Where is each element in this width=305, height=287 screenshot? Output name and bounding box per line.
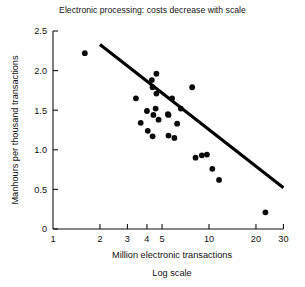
data-point (153, 71, 159, 77)
x-tick-label: 1 (50, 234, 55, 244)
y-tick-label: 0 (42, 224, 47, 234)
data-point (209, 166, 215, 172)
y-tick-label: 1.5 (34, 106, 47, 116)
data-point (174, 121, 180, 127)
x-tick-label: 10 (204, 234, 214, 244)
chart-figure: Electronic processing: costs decrease wi… (0, 0, 305, 287)
data-point (156, 117, 162, 123)
x-tick-label: 2 (97, 234, 102, 244)
y-axis-ticks: 00.51.01.52.02.5 (34, 26, 58, 234)
data-point (166, 112, 172, 118)
data-points (82, 50, 268, 215)
y-tick-label: 2.5 (34, 26, 47, 36)
x-tick-label: 4 (144, 234, 149, 244)
data-point (199, 152, 205, 158)
data-point (204, 152, 210, 158)
data-point (166, 133, 172, 139)
data-point (144, 108, 150, 114)
x-axis-subtitle: Log scale (152, 268, 191, 278)
data-point (138, 120, 144, 126)
data-point (145, 128, 151, 134)
y-axis-title: Manhours per thousand transactions (10, 55, 20, 205)
x-tick-label: 30 (278, 234, 288, 244)
data-point (216, 177, 222, 183)
axes: 00.51.01.52.02.5 12345102030 (34, 26, 288, 244)
data-point (150, 112, 156, 118)
trend-line (100, 44, 283, 187)
data-point (263, 209, 269, 215)
data-point (150, 133, 156, 139)
x-tick-label: 3 (125, 234, 130, 244)
data-point (82, 50, 88, 56)
data-point (193, 155, 199, 161)
x-axis-ticks: 12345102030 (50, 224, 288, 244)
data-point (133, 95, 139, 101)
data-point (153, 106, 159, 112)
data-point (189, 84, 195, 90)
scatter-plot: 00.51.01.52.02.5 12345102030 Million ele… (0, 0, 305, 287)
y-tick-label: 1.0 (34, 145, 47, 155)
y-tick-label: 0.5 (34, 185, 47, 195)
x-tick-label: 20 (251, 234, 261, 244)
x-tick-label: 5 (159, 234, 164, 244)
data-point (171, 135, 177, 141)
y-tick-label: 2.0 (34, 66, 47, 76)
x-axis-title: Million electronic transactions (112, 250, 232, 260)
